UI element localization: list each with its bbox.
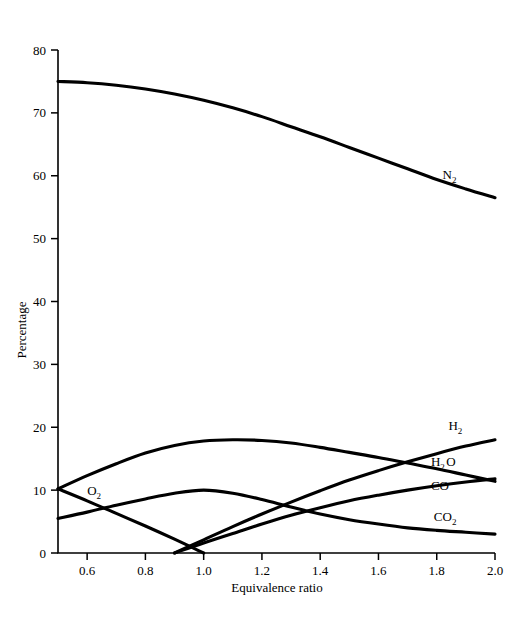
- y-axis-title: Percentage: [14, 301, 29, 358]
- x-tick-label: 0.6: [79, 563, 96, 578]
- y-axis-ticks: [51, 50, 58, 553]
- chart-series-labels: N2H2OO2H2COCO2: [87, 167, 462, 527]
- y-tick-label: 50: [33, 231, 46, 246]
- x-axis-tick-labels: 0.60.81.01.21.41.61.82.0: [79, 563, 503, 578]
- chart-axes: [51, 50, 495, 560]
- series-curve-h2o: [58, 440, 495, 489]
- y-tick-label: 40: [33, 294, 46, 309]
- y-tick-label: 80: [33, 43, 46, 58]
- x-tick-label: 2.0: [487, 563, 503, 578]
- x-tick-label: 1.6: [370, 563, 387, 578]
- x-tick-label: 1.0: [196, 563, 212, 578]
- series-curve-n2: [58, 81, 495, 197]
- x-axis-ticks: [87, 553, 495, 560]
- y-tick-label: 10: [33, 483, 46, 498]
- axis-frame: [58, 50, 495, 553]
- x-tick-label: 1.8: [429, 563, 445, 578]
- y-tick-label: 30: [33, 357, 46, 372]
- series-label-h2: H2: [448, 418, 462, 436]
- y-tick-label: 20: [33, 420, 46, 435]
- x-tick-label: 0.8: [137, 563, 153, 578]
- y-tick-label: 0: [40, 546, 47, 561]
- series-label-co2: CO2: [434, 509, 457, 527]
- chart-figure: 01020304050607080 0.60.81.01.21.41.61.82…: [0, 0, 522, 619]
- chart-series-curves: [58, 81, 495, 553]
- series-curve-o2: [58, 489, 204, 553]
- y-axis-tick-labels: 01020304050607080: [33, 43, 46, 561]
- y-tick-label: 60: [33, 168, 46, 183]
- x-tick-label: 1.2: [254, 563, 270, 578]
- y-tick-label: 70: [33, 105, 46, 120]
- series-curve-co2: [58, 490, 495, 534]
- x-tick-label: 1.4: [312, 563, 329, 578]
- line-chart: 01020304050607080 0.60.81.01.21.41.61.82…: [0, 0, 522, 619]
- x-axis-title: Equivalence ratio: [231, 580, 322, 595]
- series-label-co: CO: [431, 478, 449, 493]
- series-label-o2: O2: [87, 483, 101, 501]
